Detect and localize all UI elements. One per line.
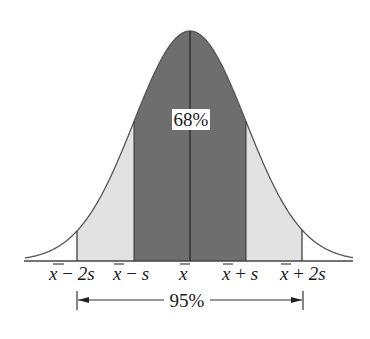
axis-label-plus-2s: x + 2s bbox=[279, 263, 326, 284]
axis-label-plus-s: x + s bbox=[221, 263, 258, 284]
axis-label-minus-s: x − s bbox=[112, 263, 149, 284]
range-indicator-95: 95% bbox=[77, 290, 303, 311]
outer-band-right bbox=[246, 0, 302, 261]
axis-label-minus-2s: x − 2s bbox=[48, 263, 95, 284]
center-percent-label: 68% bbox=[174, 109, 209, 130]
outer-band-left bbox=[77, 0, 134, 261]
range-percent-label: 95% bbox=[170, 290, 205, 311]
svg-text:x: x bbox=[178, 263, 188, 284]
svg-text:x + 2s: x + 2s bbox=[279, 263, 326, 284]
svg-text:x + s: x + s bbox=[221, 263, 258, 284]
axis-label-mean: x bbox=[178, 263, 190, 284]
arrow-left-icon bbox=[78, 297, 89, 303]
normal-distribution-diagram: 68% x − 2s x − s x x + s x + 2s 95% bbox=[0, 0, 370, 339]
svg-text:x − s: x − s bbox=[112, 263, 149, 284]
svg-text:x − 2s: x − 2s bbox=[48, 263, 95, 284]
arrow-right-icon bbox=[291, 297, 302, 303]
